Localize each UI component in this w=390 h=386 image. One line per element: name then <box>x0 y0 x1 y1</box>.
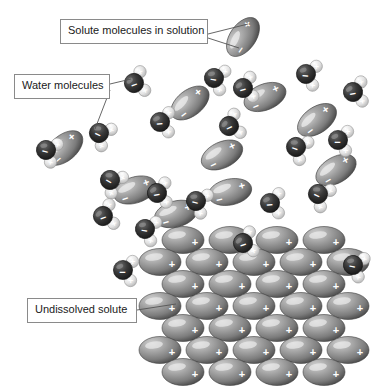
charge-negative: − <box>119 266 125 278</box>
charge-positive: + <box>357 302 363 314</box>
oxygen-atom: − <box>113 260 132 279</box>
lattice-solute-ellipse: + <box>256 359 298 386</box>
charge-positive: + <box>333 324 339 336</box>
charge-positive: + <box>169 258 175 270</box>
charge-positive: + <box>216 302 222 314</box>
charge-positive: + <box>286 280 292 292</box>
charge-positive: + <box>263 258 269 270</box>
oxygen-atom: − <box>328 130 347 149</box>
solute-molecule: +− <box>165 79 216 127</box>
charge-positive: + <box>169 302 175 314</box>
lattice-solute-ellipse: + <box>303 359 345 386</box>
charge-positive: + <box>169 346 175 358</box>
charge-positive: + <box>333 368 339 380</box>
water-molecule: ++− <box>295 59 323 92</box>
charge-positive: + <box>357 346 363 358</box>
charge-positive: + <box>333 236 339 248</box>
water-molecule: ++− <box>328 125 353 156</box>
charge-positive: + <box>263 346 269 358</box>
charge-positive: + <box>286 368 292 380</box>
charge-positive: + <box>216 258 222 270</box>
water-molecule: ++− <box>89 197 124 235</box>
charge-positive: + <box>192 236 198 248</box>
callout-text: Water molecules <box>22 79 104 91</box>
solute-molecule: +− <box>197 134 248 176</box>
water-molecule: ++− <box>120 64 155 102</box>
solute-molecule: +− <box>206 175 254 210</box>
water-molecule: ++− <box>341 75 371 110</box>
solute-molecule: +− <box>220 12 267 63</box>
diagram-svg: +++++++++++++++++++++++++++++++ +−+−+−+−… <box>0 0 390 386</box>
charge-positive: + <box>286 324 292 336</box>
lattice-solute-ellipse: + <box>327 293 369 320</box>
water-molecule: ++− <box>133 213 163 248</box>
charge-positive: + <box>239 368 245 380</box>
callout-solute-molecules-in-solution: Solute molecules in solution <box>60 19 208 44</box>
lattice-solute-ellipse: + <box>162 359 204 386</box>
water-molecule: ++− <box>149 106 177 139</box>
callout-text: Undissolved solute <box>35 303 127 315</box>
water-molecule: ++− <box>259 187 287 220</box>
charge-negative: − <box>334 136 340 148</box>
charge-negative: − <box>156 117 163 130</box>
callout-water-molecules: Water molecules <box>14 74 110 99</box>
water-molecule: ++− <box>83 116 119 155</box>
lattice-solute-ellipse: + <box>327 337 369 364</box>
water-molecule: ++− <box>113 255 138 286</box>
charge-negative: − <box>266 198 273 211</box>
lattice-solute-ellipse: + <box>209 359 251 386</box>
charge-positive: + <box>239 280 245 292</box>
charge-positive: + <box>239 324 245 336</box>
charge-positive: + <box>263 302 269 314</box>
charge-positive: + <box>310 346 316 358</box>
charge-positive: + <box>310 302 316 314</box>
callout-text: Solute molecules in solution <box>68 24 204 36</box>
charge-positive: + <box>192 280 198 292</box>
charge-positive: + <box>310 258 316 270</box>
diagram-canvas: +++++++++++++++++++++++++++++++ +−+−+−+−… <box>0 0 390 386</box>
charge-positive: + <box>286 236 292 248</box>
callout-undissolved-solute: Undissolved solute <box>27 298 137 323</box>
charge-positive: + <box>216 346 222 358</box>
charge-positive: + <box>192 368 198 380</box>
charge-positive: + <box>192 324 198 336</box>
charge-positive: + <box>333 280 339 292</box>
charge-negative: − <box>302 69 309 82</box>
